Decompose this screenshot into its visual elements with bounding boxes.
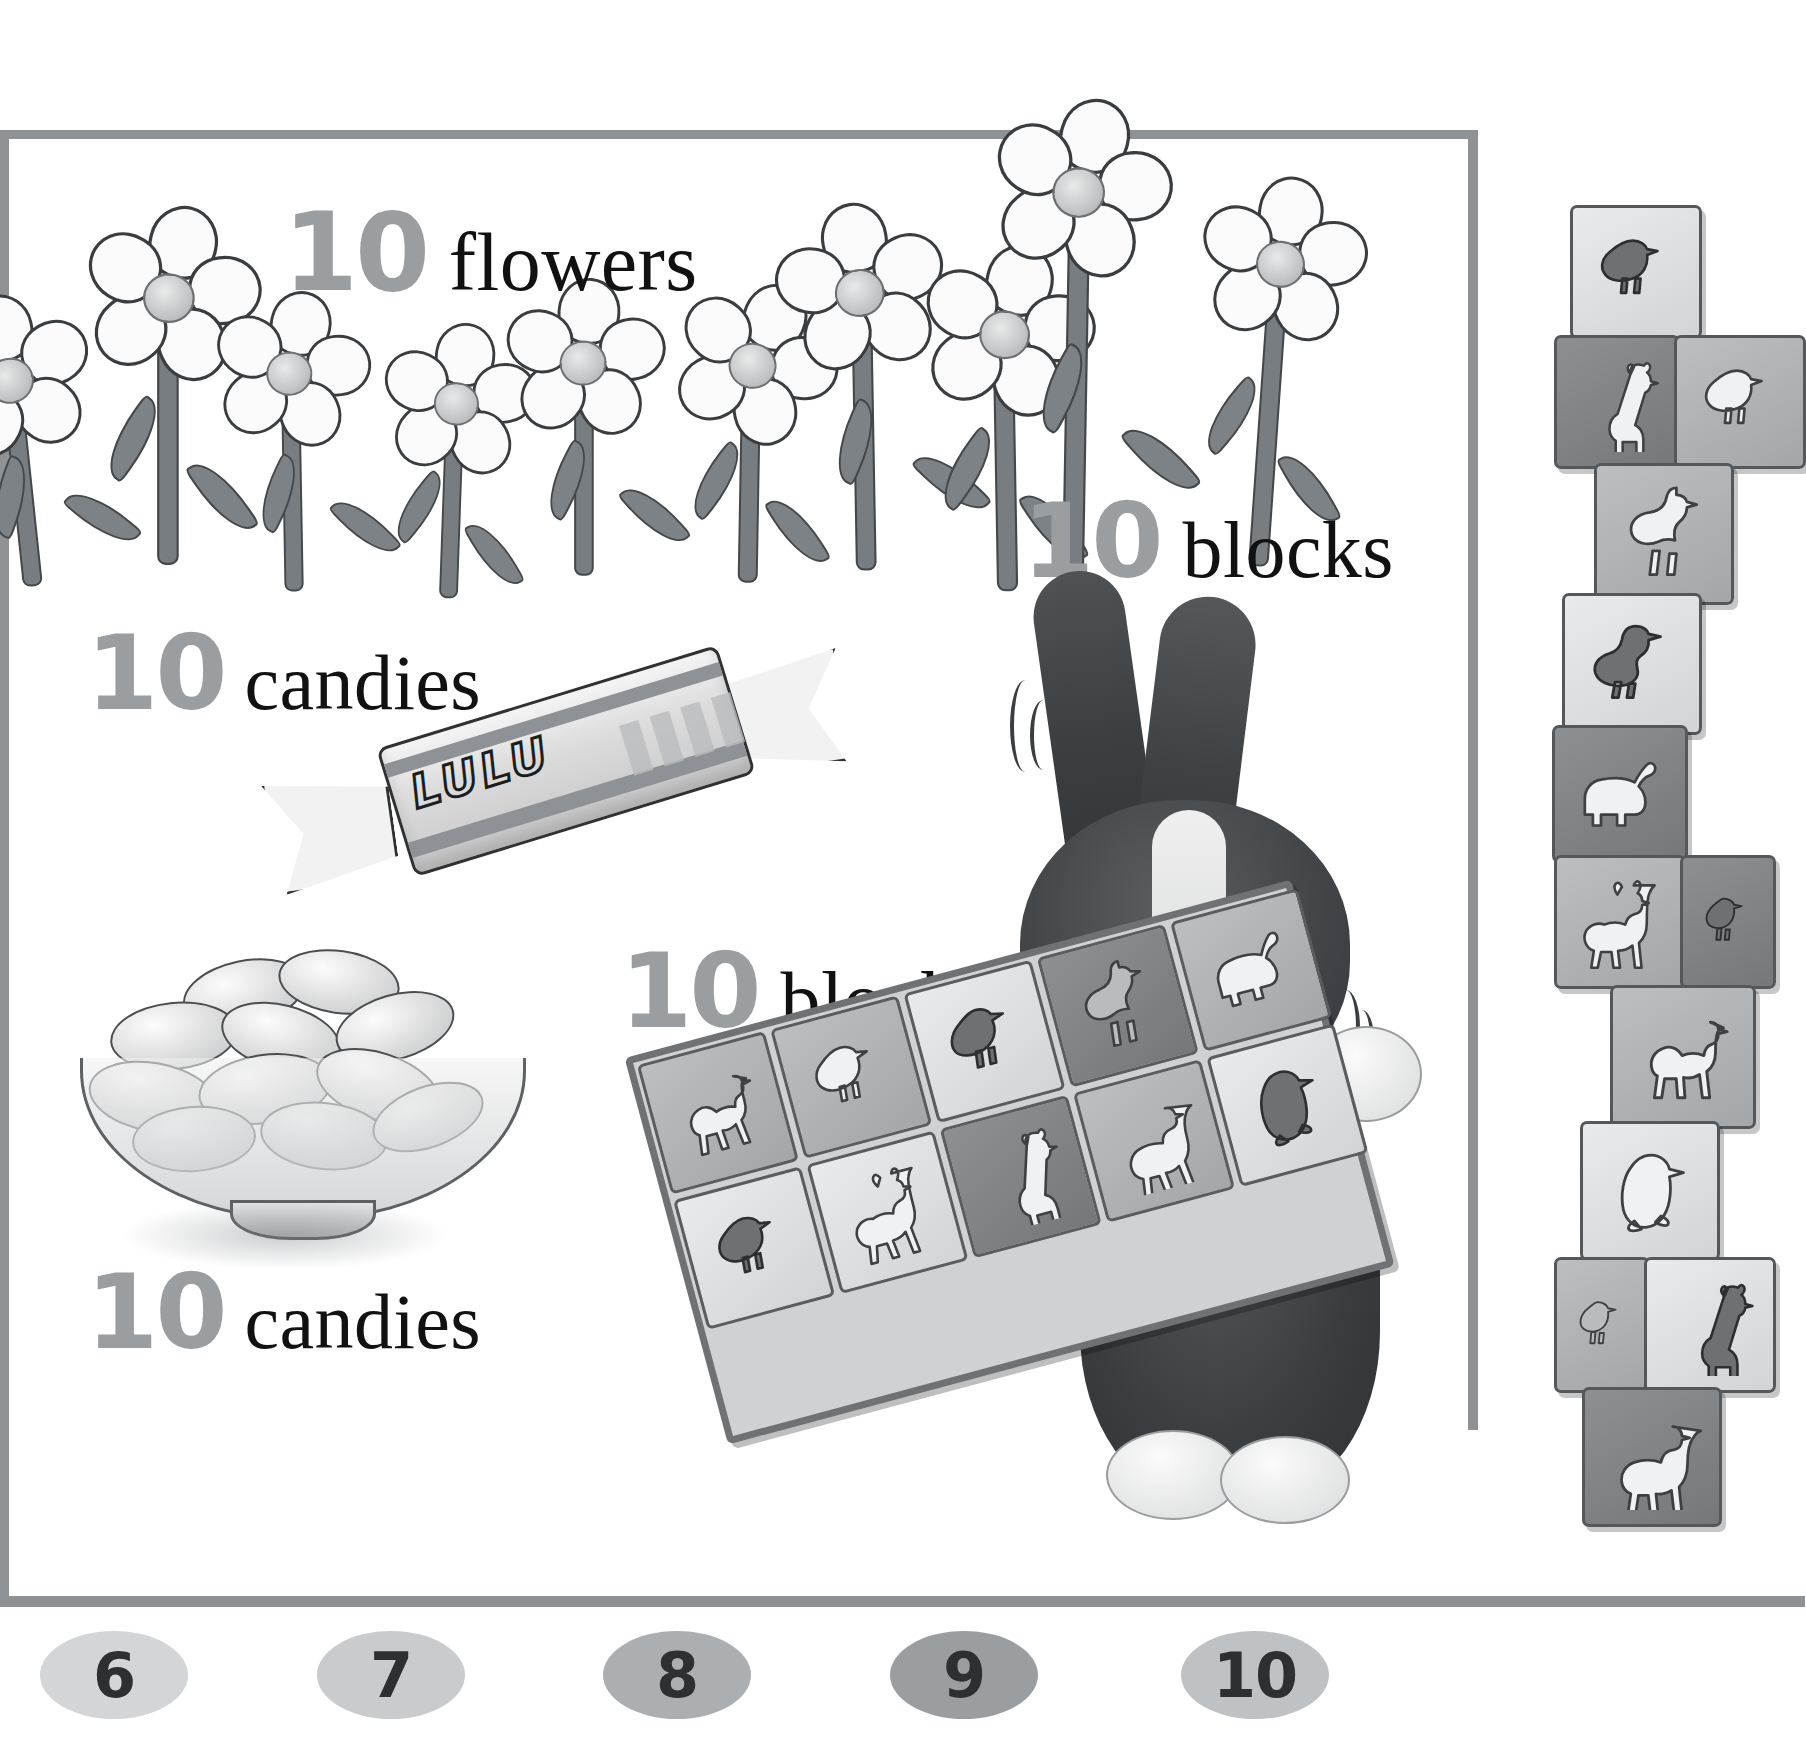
tower-block-camel	[1610, 985, 1756, 1129]
number-chip-label: 10	[1213, 1639, 1297, 1712]
tower-block-giraffe	[1644, 1257, 1776, 1393]
candy-wrapper: LULU	[248, 632, 888, 882]
penguin-icon	[1598, 1139, 1703, 1244]
quail-icon	[694, 1187, 815, 1309]
quail-icon	[1691, 352, 1789, 452]
label-number: 10	[283, 190, 427, 315]
tower-block-quail	[1570, 205, 1702, 339]
tower-block-penguin	[1580, 1121, 1720, 1261]
frame-rail-right	[1468, 130, 1478, 1430]
gazelle-icon	[827, 1151, 948, 1273]
number-chip-label: 7	[370, 1639, 412, 1712]
number-chip-label: 9	[943, 1639, 985, 1712]
candy-twist-left	[261, 764, 402, 896]
giraffe-icon	[960, 1116, 1081, 1238]
gazelle-icon	[1571, 872, 1669, 972]
tower-block-bird	[1680, 855, 1776, 989]
number-strip: 678910	[0, 1625, 1805, 1730]
number-chip-label: 8	[656, 1639, 698, 1712]
penguin-icon	[1227, 1044, 1348, 1166]
label-word: flowers	[449, 216, 698, 310]
number-chip-6[interactable]: 6	[40, 1631, 188, 1719]
bowl-glass	[80, 1058, 526, 1221]
number-chip-7[interactable]: 7	[317, 1631, 465, 1719]
giraffe-icon	[1570, 352, 1664, 452]
lamb-icon	[1600, 1405, 1705, 1510]
label-ten-flowers: 10 flowers	[283, 190, 698, 315]
tower-block-quail	[1674, 335, 1806, 469]
quail-icon	[1587, 222, 1685, 322]
ostrich-icon	[1612, 481, 1717, 587]
tower-block-giraffe	[1554, 335, 1680, 469]
camel-icon	[1629, 1003, 1738, 1111]
label-number: 10	[86, 612, 225, 734]
frame-rail-top	[0, 130, 1478, 139]
candy-body: LULU	[376, 645, 756, 877]
flower-leaf	[824, 397, 886, 486]
elephant-icon	[1191, 909, 1312, 1031]
label-number: 10	[86, 1251, 225, 1373]
rabbit-foot-right	[1220, 1436, 1350, 1524]
goose-icon	[1580, 611, 1685, 717]
ostrich-icon	[1058, 945, 1179, 1067]
tower-block-ostrich	[1594, 463, 1734, 605]
giraffe-icon	[1661, 1275, 1759, 1376]
pigeon-icon	[924, 980, 1045, 1102]
label-word: candies	[245, 1277, 482, 1367]
bird-icon	[1567, 1275, 1637, 1376]
bowl-shadow	[120, 1200, 450, 1270]
bird-icon	[1693, 872, 1763, 972]
tower-block-bird	[1554, 1257, 1650, 1393]
block-tower	[1552, 195, 1805, 1595]
number-chip-8[interactable]: 8	[603, 1631, 751, 1719]
tower-block-gazelle	[1554, 855, 1686, 989]
number-chip-10[interactable]: 10	[1181, 1631, 1329, 1719]
tower-block-elephant	[1552, 725, 1688, 863]
elephant-icon	[1570, 743, 1671, 846]
lamb-icon	[1094, 1080, 1215, 1202]
quail-icon	[791, 1016, 912, 1138]
tower-block-goose	[1562, 593, 1702, 735]
tower-block-lamb	[1582, 1387, 1722, 1527]
number-chip-9[interactable]: 9	[890, 1631, 1038, 1719]
number-chip-label: 6	[93, 1639, 135, 1712]
camel-icon	[658, 1052, 779, 1174]
